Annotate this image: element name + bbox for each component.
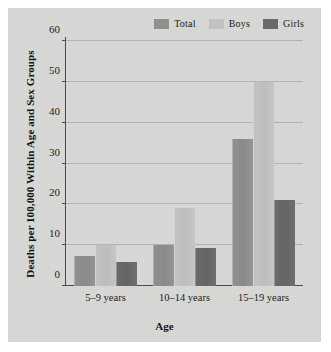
bar-boys: [95, 245, 116, 286]
bar-boys: [174, 208, 195, 286]
y-tick-label: 50: [49, 64, 60, 76]
y-tick-label: 40: [49, 105, 60, 117]
x-tick-label: 10–14 years: [145, 292, 224, 303]
y-tick-label: 20: [49, 186, 60, 198]
x-axis-tick-labels: 5–9 years10–14 years15–19 years: [66, 292, 303, 303]
y-tick-label: 30: [49, 146, 60, 158]
legend-entry-boys: Boys: [209, 18, 250, 29]
plot-area: 0102030405060: [66, 41, 303, 286]
bar-boys: [253, 82, 274, 286]
legend-entry-girls: Girls: [263, 18, 304, 29]
legend-label-total: Total: [174, 18, 195, 29]
x-axis-title: Age: [8, 320, 321, 332]
chart-legend: Total Boys Girls: [8, 18, 321, 29]
bar-total: [153, 245, 174, 286]
bar-girls: [195, 248, 216, 286]
y-axis-title: Deaths per 100,000 Within Age and Sex Gr…: [24, 39, 36, 289]
bar-total: [232, 139, 253, 286]
bar-girls: [116, 262, 137, 287]
bar-group: [66, 41, 145, 286]
bar-group: [145, 41, 224, 286]
y-tick-label: 0: [55, 268, 61, 280]
legend-swatch-boys: [209, 19, 224, 29]
bar-group: [224, 41, 303, 286]
legend-label-boys: Boys: [229, 18, 250, 29]
figure-panel: Total Boys Girls Deaths per 100,000 With…: [8, 8, 321, 342]
x-tick-label: 15–19 years: [224, 292, 303, 303]
legend-label-girls: Girls: [283, 18, 304, 29]
bar-groups: [66, 41, 303, 286]
x-tick-label: 5–9 years: [66, 292, 145, 303]
legend-swatch-total: [154, 19, 169, 29]
legend-swatch-girls: [263, 19, 278, 29]
y-tick-label: 10: [49, 227, 60, 239]
bar-total: [74, 256, 95, 286]
bar-girls: [274, 200, 295, 286]
legend-entry-total: Total: [154, 18, 195, 29]
